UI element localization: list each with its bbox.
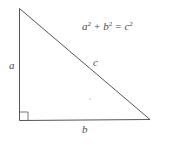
formula-plus: + [94,20,100,32]
side-b-label: b [82,124,88,135]
center-dot [89,98,90,99]
formula-a-exponent: 2 [88,20,92,28]
hypotenuse-c-label: c [93,57,98,68]
formula-c-exponent: 2 [129,20,133,28]
pythagorean-formula: a2+b2=c2 [82,21,133,32]
pythagorean-diagram: a c b a2+b2=c2 [0,0,173,147]
formula-equals: = [115,20,121,32]
right-angle-marker [20,112,29,121]
side-a-label: a [9,60,15,71]
formula-b-exponent: 2 [109,20,113,28]
